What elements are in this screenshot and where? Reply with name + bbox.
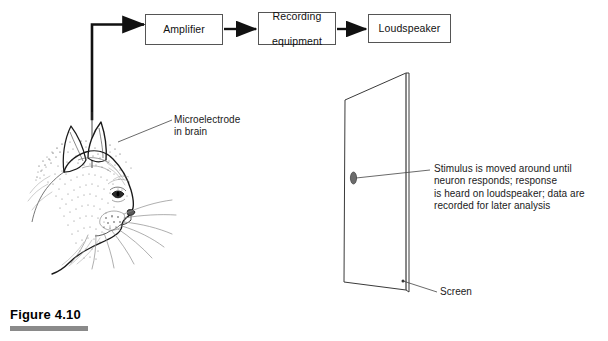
leader-microelectrode [118,120,172,142]
recording-line-1: Recording [269,10,325,22]
stimulus-line-3: is heard on loudspeaker; data are [434,188,585,199]
flow-box-recording: Recordingequipment [258,12,336,45]
screen-panel [344,73,409,292]
label-microelectrode: Microelectrode in brain [174,114,240,139]
stimulus-line-2: neuron responds; response [434,175,557,186]
flow-box-loudspeaker-label: Loudspeaker [376,22,444,34]
stimulus-spot [350,170,430,184]
flow-box-recording-label: Recordingequipment [266,10,328,46]
flow-box-amplifier: Amplifier [145,14,223,45]
recording-line-2: equipment [269,35,325,47]
stimulus-line-4: recorded for later analysis [434,200,550,211]
cat-head-illustration [28,122,176,274]
microelectrode-line-2: in brain [174,126,207,137]
figure-caption: Figure 4.10 [10,307,81,322]
microelectrode-line-1: Microelectrode [174,114,240,125]
flow-box-amplifier-label: Amplifier [160,23,208,35]
leader-screen [402,280,438,293]
electrode-cable [92,25,144,120]
figure-caption-rule [10,326,88,331]
flow-box-loudspeaker: Loudspeaker [368,14,451,43]
figure-canvas: Amplifier Recordingequipment Loudspeaker [0,0,608,341]
label-screen: Screen [440,286,472,298]
stimulus-line-1: Stimulus is moved around until [434,163,572,174]
label-stimulus: Stimulus is moved around until neuron re… [434,163,585,213]
